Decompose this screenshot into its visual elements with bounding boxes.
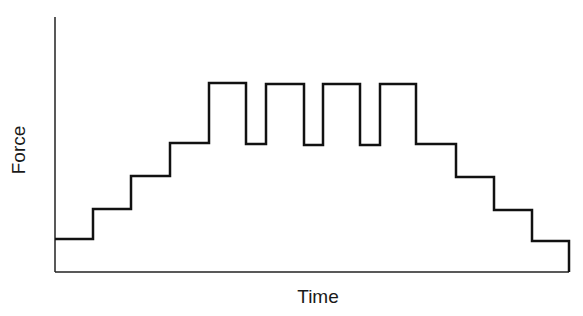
force-step-line: [55, 83, 569, 272]
y-axis-label: Force: [8, 126, 30, 175]
force-time-chart: [0, 0, 583, 316]
x-axis-label: Time: [297, 286, 339, 308]
